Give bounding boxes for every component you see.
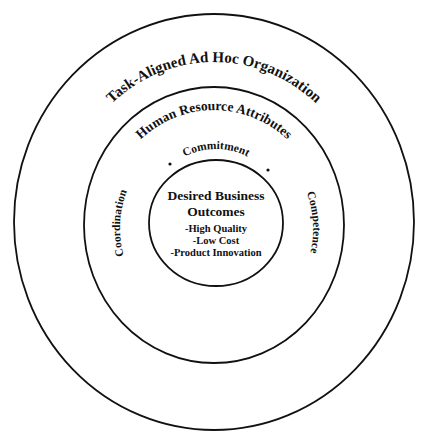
middle-ring-label: Human Resource Attributes <box>133 98 296 142</box>
outcome-item: -Product Innovation <box>170 247 261 258</box>
attribute-coordination: Coordination <box>110 187 129 258</box>
separator-dot-left <box>168 162 171 165</box>
outcome-item: -High Quality <box>185 223 248 234</box>
outcome-item: -Low Cost <box>193 235 240 246</box>
separator-dot-right <box>266 168 269 171</box>
outer-ring-label: Task-Aligned Ad Hoc Organization <box>103 49 325 106</box>
center-title-line2: Outcomes <box>187 204 245 219</box>
concentric-diagram: Task-Aligned Ad Hoc Organization Human R… <box>0 0 424 437</box>
attribute-competence: Competence <box>305 190 323 255</box>
attribute-commitment: Commitment <box>180 139 251 159</box>
center-title-line1: Desired Business <box>168 188 265 203</box>
outer-ring <box>14 14 414 430</box>
